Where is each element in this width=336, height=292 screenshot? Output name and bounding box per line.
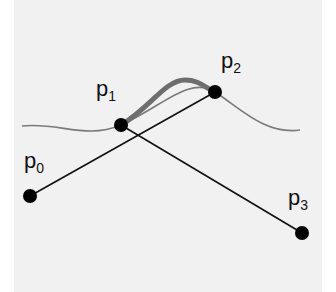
point-p1 [114,118,128,132]
label-p0: p0 [24,148,44,176]
label-p2: p2 [221,48,241,76]
segment-p0-p2 [30,92,215,196]
segment-p1-p3 [121,125,302,233]
point-p0 [23,189,37,203]
label-p1: p1 [96,76,116,104]
label-p3: p3 [288,185,308,213]
bezier-diagram: p0 p1 p2 p3 [0,0,336,292]
point-p2 [208,85,222,99]
point-p3 [295,226,309,240]
